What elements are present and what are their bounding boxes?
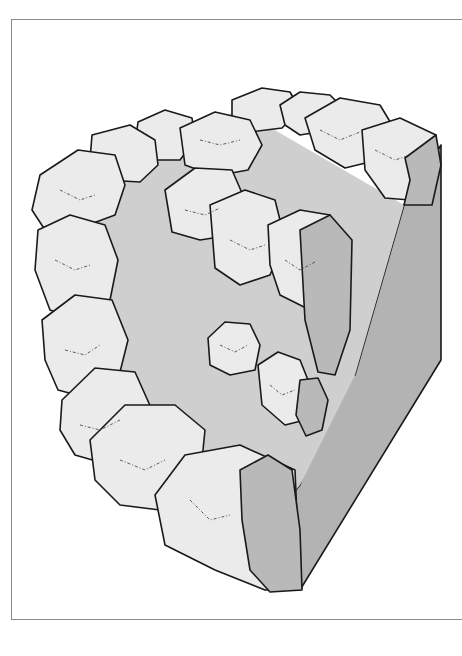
stone-illustration xyxy=(0,0,462,656)
stone xyxy=(180,112,262,176)
stone xyxy=(208,322,260,375)
